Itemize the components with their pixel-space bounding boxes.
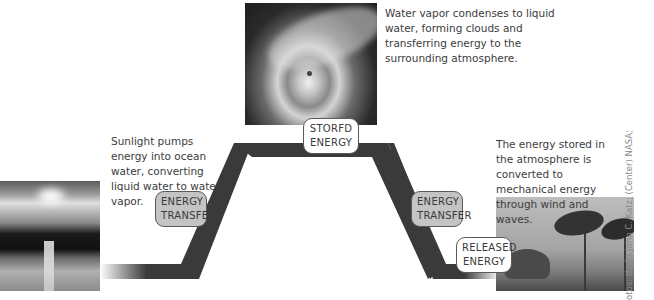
energy-transfer-left-line2: TRANSFER bbox=[161, 209, 201, 223]
stored-energy-line1: STORFD bbox=[309, 122, 353, 136]
stored-energy-line2: ENERGY bbox=[309, 136, 353, 150]
energy-transfer-left-line1: ENERGY bbox=[161, 195, 201, 209]
sunset-photo bbox=[0, 181, 100, 291]
hurricane-photo bbox=[245, 3, 377, 125]
energy-transfer-label-right: ENERGY TRANSFER bbox=[411, 191, 463, 227]
stored-energy-label: STORFD ENERGY bbox=[303, 118, 359, 154]
energy-transfer-right-line1: ENERGY bbox=[417, 195, 457, 209]
released-energy-line1: RELEASED bbox=[462, 241, 506, 255]
caption-condensation: Water vapor condenses to liquid water, f… bbox=[385, 6, 575, 66]
band-left-low bbox=[100, 264, 193, 279]
energy-transfer-right-line2: TRANSFER bbox=[417, 209, 457, 223]
released-energy-label: RELEASED ENERGY bbox=[456, 237, 512, 273]
released-energy-line2: ENERGY bbox=[462, 255, 506, 269]
photo-credit: otos: (Left) John C. Katz; (Center) NASA… bbox=[624, 130, 634, 300]
caption-release: The energy stored in the atmosphere is c… bbox=[496, 137, 624, 227]
energy-transfer-label-left: ENERGY TRANSFER bbox=[155, 191, 207, 227]
